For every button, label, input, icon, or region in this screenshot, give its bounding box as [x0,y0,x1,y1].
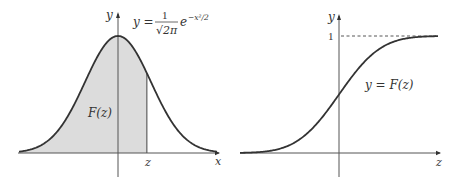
formula-lhs: y = [132,15,154,29]
cdf-plot: y 1 z y = F(z) [240,10,442,177]
formula-numerator: 1 [162,9,168,21]
density-plot: y x z F(z) y = 1 √2π e −x²/2 [18,8,222,177]
shaded-area-f-z [19,36,147,153]
curve-label: y = F(z) [364,78,414,92]
formula-denominator: √2π [156,24,178,37]
formula-e: e [180,15,187,29]
figure: y x z F(z) y = 1 √2π e −x²/2 y 1 z y = F… [0,0,462,181]
formula-exponent: −x²/2 [188,13,209,22]
x-axis-arrow-icon [436,151,441,155]
y-axis-arrow-icon [337,14,341,20]
density-formula: y = 1 √2π e −x²/2 [132,9,209,37]
z-tick-label: z [144,156,151,169]
area-label: F(z) [87,106,112,120]
y-axis-label: y [327,10,335,24]
x-axis-label: z [435,156,442,169]
y-axis-label: y [105,8,113,22]
asymptote-label: 1 [328,30,334,42]
x-axis-label: x [215,155,222,168]
y-axis-arrow-icon [116,12,120,18]
